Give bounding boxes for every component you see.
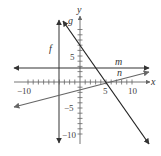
line-n-label: n (117, 67, 122, 78)
x-axis: x −10 5 10 (14, 76, 156, 96)
x-axis-label: x (150, 76, 156, 87)
tick-y-neg10: −10 (62, 130, 77, 140)
y-axis-label: y (76, 4, 82, 15)
line-m-label: m (115, 56, 122, 67)
line-g-label: g (68, 15, 73, 26)
tick-y-neg5: −5 (64, 103, 74, 113)
tick-x-neg10: −10 (17, 86, 32, 96)
tick-x-10: 10 (128, 86, 138, 96)
tick-x-5: 5 (103, 86, 108, 96)
tick-y-5: 5 (70, 52, 75, 62)
line-f-label: f (49, 43, 53, 54)
coordinate-plane: x −10 5 10 y 5 −5 −10 f m (0, 0, 161, 156)
